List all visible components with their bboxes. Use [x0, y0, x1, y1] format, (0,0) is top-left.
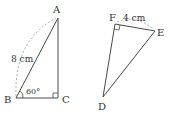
vertex-c-label: C — [62, 94, 70, 105]
vertex-a-label: A — [52, 4, 61, 15]
right-angle-c-marker — [53, 93, 58, 98]
side-fe-length-label: 4 cm — [123, 13, 146, 23]
angle-b-label: 60° — [26, 87, 40, 96]
triangle-abc: A B C 8 cm 60° — [4, 4, 70, 105]
triangle-def-outline — [103, 24, 155, 97]
vertex-b-label: B — [4, 94, 11, 105]
vertex-d-label: D — [98, 101, 106, 112]
vertex-e-label: E — [157, 27, 164, 38]
geometry-diagram: A B C 8 cm 60° F E D 4 cm — [0, 0, 176, 117]
angle-b-arc — [20, 91, 23, 98]
side-ab-length-label: 8 cm — [11, 54, 34, 64]
triangle-def: F E D 4 cm — [98, 12, 164, 112]
vertex-f-label: F — [109, 12, 116, 23]
